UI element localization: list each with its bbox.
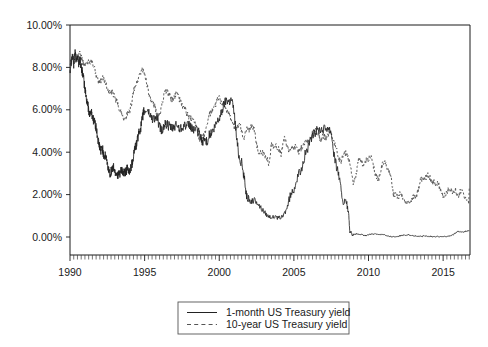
legend-label-1-month: 1-month US Treasury yield: [226, 306, 350, 318]
x-tick-label: 2000: [208, 266, 232, 278]
x-tick-label: 2005: [282, 266, 306, 278]
x-tick-label: 2010: [357, 266, 381, 278]
y-tick-label: 8.00%: [32, 61, 62, 73]
legend-label-10-year: 10-year US Treasury yield: [226, 318, 348, 330]
x-tick-label: 1990: [58, 266, 82, 278]
y-tick-label: 6.00%: [32, 103, 62, 115]
chart-figure: 0.00%2.00%4.00%6.00%8.00%10.00% 19901995…: [0, 0, 488, 347]
y-tick-label: 4.00%: [32, 146, 62, 158]
y-axis-ticks: 0.00%2.00%4.00%6.00%8.00%10.00%: [26, 19, 70, 243]
x-tick-label: 1995: [133, 266, 157, 278]
y-tick-label: 2.00%: [32, 188, 62, 200]
y-tick-label: 0.00%: [32, 231, 62, 243]
series-line-10-year: [70, 51, 469, 204]
series-line-1-month: [70, 49, 469, 236]
x-axis-minor-ticks: [74, 255, 470, 260]
plot-frame: [70, 25, 470, 255]
chart-legend: 1-month US Treasury yield 10-year US Tre…: [178, 302, 350, 334]
series-group: [70, 49, 469, 236]
treasury-yield-chart: 0.00%2.00%4.00%6.00%8.00%10.00% 19901995…: [0, 0, 488, 347]
y-tick-label: 10.00%: [26, 19, 62, 31]
x-tick-label: 2015: [431, 266, 455, 278]
